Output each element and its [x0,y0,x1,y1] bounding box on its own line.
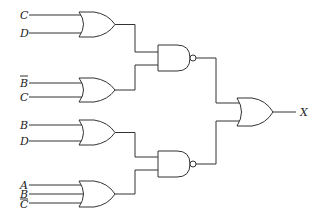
or-gate-4: A B C [19,170,158,211]
input-label-b-bar: B [19,77,28,90]
input-label-c: C [20,91,29,104]
input-label-c-bar: C [20,198,29,211]
or-gate-3: B D [19,119,158,157]
nand-gate-1 [158,45,240,103]
input-label-b: B [19,119,28,132]
output-label-x: X [299,106,309,119]
input-label-d: D [19,135,29,148]
or-gate-1: C D [19,9,158,52]
input-label-d: D [19,27,29,40]
or-gate-2: B C [19,65,158,104]
input-label-c: C [20,9,29,22]
inversion-bubble [190,161,196,167]
logic-circuit-diagram: C D B C B D A B C [0,0,321,223]
or-gate-output: X [237,98,309,126]
inversion-bubble [190,55,196,61]
nand-gate-2 [158,121,240,177]
